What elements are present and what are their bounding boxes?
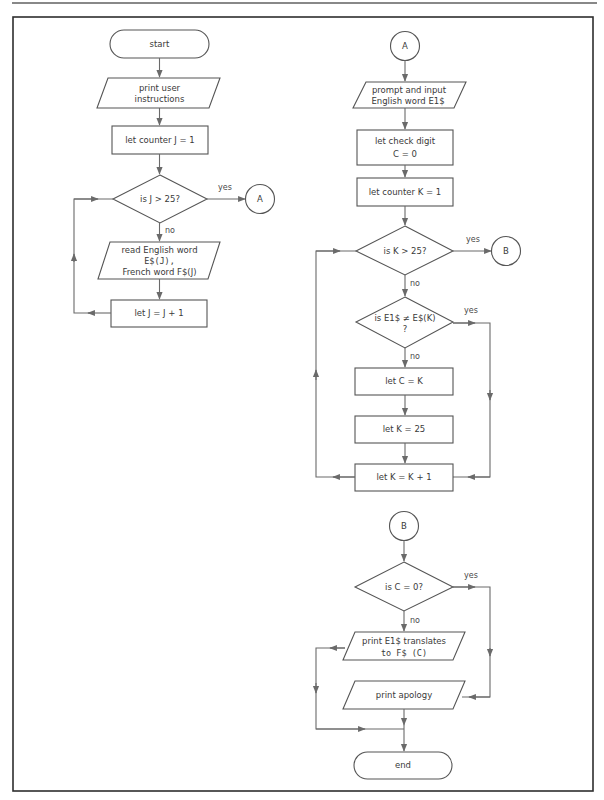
prompt-input-line1: prompt and input <box>372 85 447 95</box>
start-terminal: start <box>110 30 209 58</box>
read-words-line1: read English word <box>121 245 197 255</box>
decision-k-gt-25: is K > 25? <box>356 226 453 275</box>
yes-label: yes <box>464 306 478 315</box>
no-label: no <box>410 279 420 288</box>
read-words-line2: E$(J), <box>144 256 175 266</box>
increment-j-label: let J = J + 1 <box>134 308 183 318</box>
flowchart-figure: start print user instructions let counte… <box>0 0 604 800</box>
init-counter-j-process: let counter J = 1 <box>112 126 208 154</box>
print-translation-line1: print E1$ translates <box>362 636 447 646</box>
read-words-line3: French word F$(J) <box>123 267 197 277</box>
print-apology-label: print apology <box>376 690 432 700</box>
print-instructions-line2: instructions <box>135 94 185 104</box>
loop-line <box>316 251 356 477</box>
init-check-digit-process: let check digit C = 0 <box>357 130 453 165</box>
increment-k-label: let K = K + 1 <box>376 472 431 482</box>
connector-b-in-label: B <box>401 521 407 531</box>
decision-word-mismatch: is E1$ ≠ E$(K) ? <box>356 297 453 348</box>
print-translation-io: print E1$ translates to F$ (C) <box>343 632 465 660</box>
decision-k-label: is K > 25? <box>384 246 427 256</box>
set-k-process: let K = 25 <box>355 416 453 443</box>
decision-c-eq-0: is C = 0? <box>355 562 453 611</box>
connector-b-in: B <box>390 512 419 541</box>
connector-b-label: B <box>503 246 509 256</box>
yes-label: yes <box>466 235 480 244</box>
print-instructions-line1: print user <box>139 83 181 93</box>
end-terminal: end <box>354 752 452 779</box>
yes-label: yes <box>464 571 478 580</box>
end-label: end <box>395 760 411 770</box>
flowchart-right-bottom: B is C = 0? yes no print E1$ translates … <box>316 512 490 780</box>
prompt-input-io: prompt and input English word E1$ <box>353 82 466 108</box>
init-counter-k-process: let counter K = 1 <box>357 178 453 206</box>
print-apology-io: print apology <box>343 681 465 709</box>
print-instructions-io: print user instructions <box>97 78 220 108</box>
increment-k-process: let K = K + 1 <box>355 464 453 491</box>
connector-a-label: A <box>257 194 263 204</box>
increment-j-process: let J = J + 1 <box>111 300 207 327</box>
set-c-process: let C = K <box>355 368 453 395</box>
set-k-label: let K = 25 <box>383 424 426 434</box>
start-label: start <box>150 39 170 49</box>
print-translation-line2: to F$ (C) <box>381 648 427 658</box>
init-counter-j-label: let counter J = 1 <box>125 135 194 145</box>
connector-a-in-label: A <box>402 41 408 51</box>
prompt-input-line2: English word E1$ <box>371 96 444 106</box>
read-words-io: read English word E$(J), French word F$(… <box>98 242 220 279</box>
connector-a-out: A <box>246 185 275 214</box>
set-c-label: let C = K <box>385 376 423 386</box>
connector-a-in: A <box>391 32 420 61</box>
figure-frame <box>13 17 593 791</box>
decision-c-label: is C = 0? <box>385 582 423 592</box>
init-counter-k-label: let counter K = 1 <box>369 187 442 197</box>
no-label: no <box>410 616 420 625</box>
decision-match-line1: is E1$ ≠ E$(K) <box>374 313 435 323</box>
decision-j-label: is J > 25? <box>140 194 180 204</box>
init-check-line1: let check digit <box>375 136 436 146</box>
decision-match-line2: ? <box>403 324 408 334</box>
flowchart-left: start print user instructions let counte… <box>74 30 275 327</box>
bypass-line <box>453 323 490 477</box>
connector-b-out: B <box>492 237 521 266</box>
init-check-line2: C = 0 <box>393 149 417 159</box>
flowchart-right-top: A prompt and input English word E1$ let … <box>316 32 521 492</box>
decision-j-gt-25: is J > 25? <box>113 175 207 223</box>
no-label: no <box>410 352 420 361</box>
yes-label: yes <box>218 183 232 192</box>
no-label: no <box>165 226 175 235</box>
